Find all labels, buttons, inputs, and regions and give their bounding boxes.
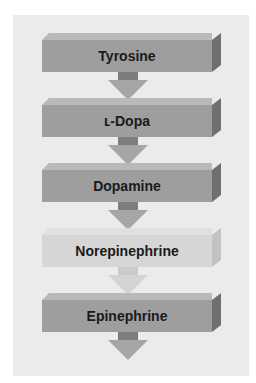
step-norepinephrine: Norepinephrine xyxy=(42,235,212,267)
box-top-face xyxy=(42,228,212,235)
step-label: Dopamine xyxy=(42,170,212,202)
step-label: Norepinephrine xyxy=(42,235,212,267)
box-top-face xyxy=(42,98,212,105)
step-tyrosine: Tyrosine xyxy=(42,40,212,72)
box-top-face xyxy=(42,33,212,40)
step-epinephrine: Epinephrine xyxy=(42,300,212,332)
box-top-face xyxy=(42,293,212,300)
down-arrow-icon xyxy=(108,202,148,230)
down-arrow-icon xyxy=(108,137,148,165)
down-arrow-icon xyxy=(108,72,148,100)
step-dopamine: Dopamine xyxy=(42,170,212,202)
box-top-face xyxy=(42,163,212,170)
down-arrow-icon xyxy=(108,267,148,295)
down-arrow-icon xyxy=(108,332,148,360)
step-label: Tyrosine xyxy=(42,40,212,72)
step-l-dopa: ʟ-Dopa xyxy=(42,105,212,137)
step-label: ʟ-Dopa xyxy=(42,105,212,137)
step-label: Epinephrine xyxy=(42,300,212,332)
